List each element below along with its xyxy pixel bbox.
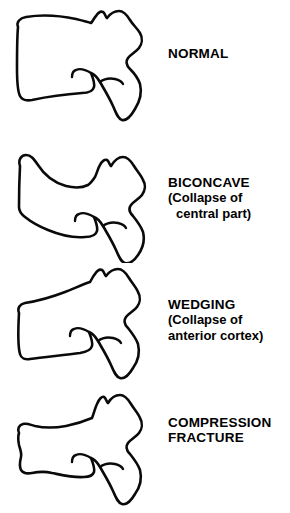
label-wedging-sub1: (Collapse of <box>168 312 290 328</box>
figure-row-biconcave: BICONCAVE (Collapse of central part) <box>0 133 290 263</box>
figure-row-compression: COMPRESSION FRACTURE <box>0 387 290 513</box>
wedging-vertebra-drawing <box>0 265 160 387</box>
label-compression-sub1: FRACTURE <box>168 430 290 445</box>
biconcave-vertebra-drawing <box>0 133 160 263</box>
label-biconcave-title: BICONCAVE <box>168 175 290 190</box>
normal-vertebra-drawing <box>0 0 160 128</box>
figure-row-normal: NORMAL <box>0 0 290 128</box>
vertebral-deformity-figure: NORMAL BICONCAVE (Collapse of central pa… <box>0 0 290 513</box>
label-wedging-title: WEDGING <box>168 297 290 312</box>
compression-fracture-vertebra-drawing <box>0 387 160 513</box>
label-biconcave-sub2: central part) <box>168 206 290 222</box>
figure-row-wedging: WEDGING (Collapse of anterior cortex) <box>0 265 290 387</box>
label-biconcave-sub1: (Collapse of <box>168 190 290 206</box>
normal-label-group: NORMAL <box>168 46 290 61</box>
wedging-label-group: WEDGING (Collapse of anterior cortex) <box>168 297 290 344</box>
label-wedging-sub2: anterior cortex) <box>168 328 290 344</box>
label-compression-title: COMPRESSION <box>168 415 290 430</box>
compression-label-group: COMPRESSION FRACTURE <box>168 415 290 445</box>
biconcave-label-group: BICONCAVE (Collapse of central part) <box>168 175 290 222</box>
label-normal-title: NORMAL <box>168 46 290 61</box>
